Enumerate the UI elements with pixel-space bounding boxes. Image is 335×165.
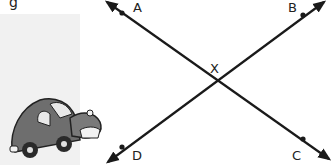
geometry-diagram: A B X D C	[0, 0, 335, 165]
label-A: A	[133, 0, 142, 15]
label-B: B	[288, 0, 297, 15]
label-X: X	[210, 61, 219, 76]
point-A	[119, 10, 124, 15]
car-illustration	[10, 99, 101, 158]
point-C	[300, 136, 305, 141]
point-D	[119, 144, 124, 149]
label-C: C	[292, 148, 301, 163]
label-D: D	[132, 148, 142, 163]
point-B	[300, 12, 305, 17]
